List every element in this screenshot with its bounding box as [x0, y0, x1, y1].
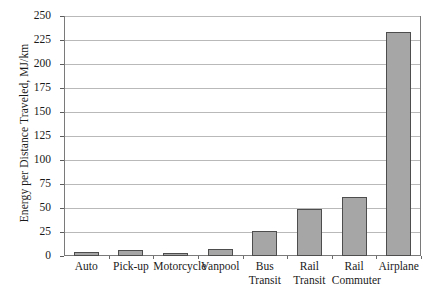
x-axis-tick-label-line2: Transit: [287, 273, 332, 287]
bar: [386, 32, 411, 256]
y-axis-tick-label: 175: [0, 82, 59, 94]
x-axis-tick-label-line1: Vanpool: [201, 260, 239, 272]
y-axis-tick-mark: [60, 16, 64, 17]
y-axis-tick-mark: [60, 232, 64, 233]
y-axis-tick-label: 0: [0, 250, 59, 262]
y-axis-tick-label: 100: [0, 154, 59, 166]
bars-layer: [64, 16, 421, 256]
x-axis-tick-label-line1: Pick-up: [113, 260, 149, 272]
x-axis-tick-label-line1: Rail: [300, 260, 319, 272]
y-axis-tick-mark: [60, 208, 64, 209]
y-axis-tick-mark: [60, 256, 64, 257]
bar: [252, 231, 277, 256]
x-axis-tick-mark: [243, 256, 244, 259]
x-axis-tick-mark: [109, 256, 110, 259]
x-axis-tick-label: Auto: [64, 259, 109, 273]
y-axis-tick-label: 50: [0, 202, 59, 214]
x-axis-tick-label-line1: Airplane: [379, 260, 419, 272]
x-axis-tick-mark: [332, 256, 333, 259]
x-axis-tick-label-line1: Bus: [256, 260, 274, 272]
y-axis-tick-mark: [60, 88, 64, 89]
x-axis-tick-label: BusTransit: [243, 259, 288, 287]
x-axis-tick-label: Airplane: [376, 259, 421, 273]
y-axis-tick-label: 25: [0, 226, 59, 238]
x-axis-tick-labels: AutoPick-upMotorcycleVanpoolBusTransitRa…: [64, 259, 421, 298]
y-axis-tick-label: 200: [0, 58, 59, 70]
x-axis-tick-mark: [287, 256, 288, 259]
y-axis-tick-label: 150: [0, 106, 59, 118]
bar-chart: Energy per Distance Traveled, MJ/km 0255…: [0, 0, 437, 298]
x-axis-tick-mark: [198, 256, 199, 259]
x-axis-tick-label-line2: Transit: [243, 273, 288, 287]
x-axis-tick-label-line2: Commuter: [332, 273, 377, 287]
x-axis-tick-mark: [376, 256, 377, 259]
y-axis-tick-mark: [60, 64, 64, 65]
x-axis-tick-mark: [153, 256, 154, 259]
y-axis-tick-mark: [60, 40, 64, 41]
y-axis-tick-mark: [60, 112, 64, 113]
bar: [118, 250, 143, 256]
y-axis-tick-mark: [60, 136, 64, 137]
x-axis-tick-label: Vanpool: [198, 259, 243, 273]
x-axis-tick-label-line1: Auto: [75, 260, 98, 272]
y-axis-tick-label: 75: [0, 178, 59, 190]
y-axis-tick-label: 225: [0, 34, 59, 46]
x-axis-tick-label: Pick-up: [109, 259, 154, 273]
x-axis-tick-label: Motorcycle: [153, 259, 198, 273]
bar: [342, 197, 367, 256]
x-axis-tick-label-line1: Rail: [344, 260, 363, 272]
bar: [208, 249, 233, 256]
y-axis-tick-mark: [60, 160, 64, 161]
bar: [297, 209, 322, 256]
x-axis-tick-label: RailCommuter: [332, 259, 377, 287]
y-axis-tick-labels: 0255075100125150175200225250: [0, 0, 59, 298]
x-axis-tick-mark: [421, 256, 422, 259]
y-axis-tick-mark: [60, 184, 64, 185]
bar: [163, 253, 188, 256]
y-axis-tick-label: 250: [0, 10, 59, 22]
bar: [74, 252, 99, 256]
y-axis-tick-label: 125: [0, 130, 59, 142]
x-axis-tick-label: RailTransit: [287, 259, 332, 287]
